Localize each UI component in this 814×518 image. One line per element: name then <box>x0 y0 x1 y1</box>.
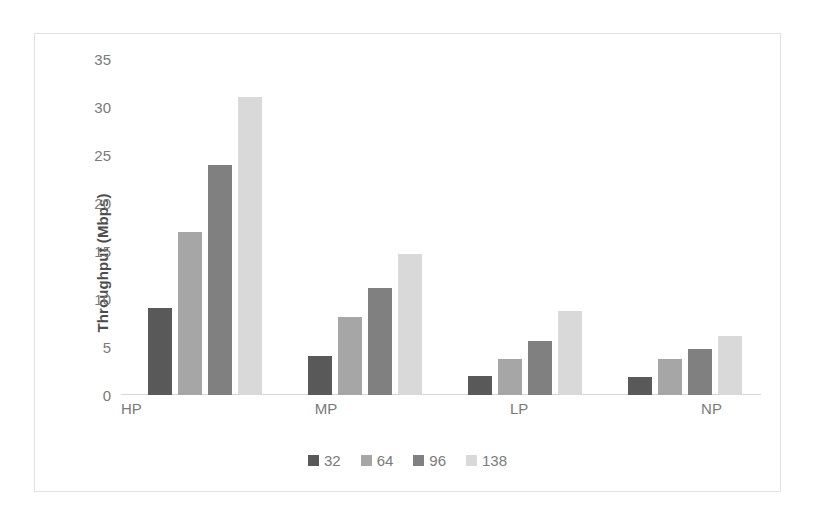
legend-item[interactable]: 64 <box>361 452 394 469</box>
bar-groups <box>121 59 761 395</box>
bar-group <box>601 59 761 395</box>
bar[interactable] <box>658 359 682 395</box>
bar[interactable] <box>338 317 362 395</box>
legend-swatch-icon <box>466 455 477 466</box>
legend-label: 32 <box>324 452 341 469</box>
legend-label: 96 <box>429 452 446 469</box>
chart-figure: Throughput (Mbps) 05101520253035 HPMPLPN… <box>34 33 781 492</box>
bar[interactable] <box>688 349 712 395</box>
bar[interactable] <box>498 359 522 395</box>
bar[interactable] <box>238 97 262 395</box>
bar[interactable] <box>628 377 652 395</box>
bar[interactable] <box>558 311 582 395</box>
plot-wrapper: Throughput (Mbps) 05101520253035 HPMPLPN… <box>35 34 780 491</box>
bar[interactable] <box>528 341 552 395</box>
chart-legend: 326496138 <box>35 452 780 469</box>
bar[interactable] <box>178 232 202 395</box>
bar[interactable] <box>468 376 492 395</box>
bar-group <box>441 59 601 395</box>
bar[interactable] <box>368 288 392 395</box>
legend-swatch-icon <box>413 455 424 466</box>
bar[interactable] <box>148 308 172 395</box>
y-axis-tick-label: 20 <box>71 195 111 212</box>
x-axis-category-label: MP <box>315 400 510 417</box>
bar[interactable] <box>308 356 332 395</box>
y-axis-tick-label: 30 <box>71 99 111 116</box>
x-axis-category-labels: HPMPLPNP <box>121 400 761 417</box>
y-axis-tick-label: 5 <box>71 339 111 356</box>
bar[interactable] <box>718 336 742 395</box>
plot-area <box>121 59 761 395</box>
x-axis-category-label: NP <box>701 400 814 417</box>
bar-group <box>281 59 441 395</box>
y-axis-tick-label: 35 <box>71 51 111 68</box>
bar[interactable] <box>208 165 232 395</box>
legend-item[interactable]: 138 <box>466 452 507 469</box>
y-axis-tick-label: 10 <box>71 291 111 308</box>
bar-group <box>121 59 281 395</box>
y-axis-tick-label: 25 <box>71 147 111 164</box>
legend-label: 138 <box>482 452 507 469</box>
legend-item[interactable]: 96 <box>413 452 446 469</box>
y-axis-tick-label: 0 <box>71 387 111 404</box>
y-axis-tick-labels: 05101520253035 <box>71 59 111 395</box>
legend-swatch-icon <box>361 455 372 466</box>
x-axis-category-label: LP <box>510 400 701 417</box>
bar[interactable] <box>398 254 422 395</box>
legend-swatch-icon <box>308 455 319 466</box>
y-axis-tick-label: 15 <box>71 243 111 260</box>
x-axis-category-label: HP <box>121 400 315 417</box>
legend-item[interactable]: 32 <box>308 452 341 469</box>
legend-label: 64 <box>377 452 394 469</box>
